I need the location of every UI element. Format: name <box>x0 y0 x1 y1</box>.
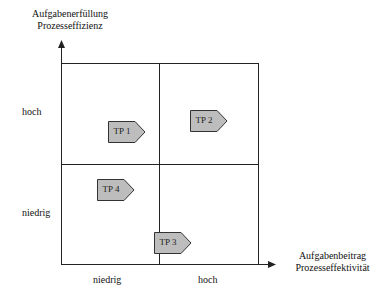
marker-label: TP 1 <box>108 125 136 137</box>
y-axis-title-line1: Aufgabenerfüllung <box>10 8 130 20</box>
x-axis-title: Aufgabenbeitrag Prozesseffektivität <box>280 250 385 274</box>
x-axis-arrow-icon <box>268 261 276 268</box>
x-tick-niedrig: niedrig <box>93 274 121 286</box>
y-axis-arrow-icon <box>58 40 65 48</box>
x-axis-title-line1: Aufgabenbeitrag <box>280 250 385 262</box>
marker-tp3: TP 3 <box>154 232 192 252</box>
y-tick-hoch: hoch <box>22 106 41 118</box>
grid-right <box>258 63 259 265</box>
marker-label: TP 4 <box>97 183 125 195</box>
x-axis-title-line2: Prozesseffektivität <box>280 262 385 274</box>
x-tick-hoch: hoch <box>198 274 217 286</box>
marker-tp2: TP 2 <box>190 110 228 130</box>
y-axis-title: Aufgabenerfüllung Prozesseffizienz <box>10 8 130 32</box>
marker-tp1: TP 1 <box>108 121 146 141</box>
x-axis-line <box>61 264 269 265</box>
marker-label: TP 2 <box>190 114 218 126</box>
grid-middle-horizontal <box>61 164 259 165</box>
marker-tp4: TP 4 <box>97 179 135 199</box>
y-axis-title-line2: Prozesseffizienz <box>10 20 130 32</box>
marker-label: TP 3 <box>154 236 182 248</box>
y-axis-line <box>61 46 62 265</box>
grid-top <box>61 63 259 64</box>
y-tick-niedrig: niedrig <box>22 207 50 219</box>
